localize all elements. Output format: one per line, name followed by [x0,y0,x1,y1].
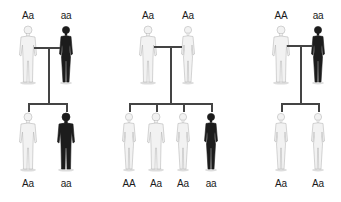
panel-3-child-1-female-unaffected-figure-icon [271,112,291,176]
panel-1-descent-line [48,47,50,103]
panel-1-child-1-male-unaffected-figure-icon [17,112,39,176]
panel-2-child-4-genotype-label: aa [206,178,217,189]
panel-3-child-1-genotype-label: Aa [275,178,287,189]
panel-2-child-1-connector [129,103,131,112]
panel-1-sibship-line [28,103,68,105]
panel-1-child-2-genotype-label: aa [61,178,72,189]
panel-3-parent-2-genotype-label: aa [313,10,324,21]
panel-1-child-2-male-affected-figure-icon [55,112,77,176]
panel-3-parent-2-female-affected-figure-icon [308,25,328,89]
panel-3-parent-1-genotype-label: AA [275,10,288,21]
panel-1-mating-line [34,47,60,49]
panel-2-sibship-line [129,103,213,105]
panel-1-child-2-connector [66,103,68,112]
panel-1-child-1-connector [28,103,30,112]
panel-3-child-2-connector [318,103,320,112]
panel-2-child-3-genotype-label: Aa [177,178,189,189]
panel-3-child-2-female-unaffected-figure-icon [308,112,328,176]
panel-1-parent-1-genotype-label: Aa [22,10,34,21]
panel-1-parent-2-genotype-label: aa [61,10,72,21]
panel-2-parent-2-genotype-label: Aa [182,10,194,21]
panel-2-child-2-male-unaffected-figure-icon [145,112,167,176]
panel-1-parent-1-male-unaffected-figure-icon [17,25,39,89]
panel-3-parent-1-male-unaffected-figure-icon [270,25,292,89]
panel-2-descent-line [170,46,172,103]
panel-2-parent-1-genotype-label: Aa [142,10,154,21]
panel-1-child-1-genotype-label: Aa [22,178,34,189]
panel-3-child-2-genotype-label: Aa [312,178,324,189]
panel-3-child-1-connector [281,103,283,112]
panel-1-parent-2-female-affected-figure-icon [56,25,76,89]
panel-2-child-2-connector [156,103,158,112]
panel-3-sibship-line [281,103,320,105]
panel-2-parent-2-female-unaffected-figure-icon [178,25,198,89]
panel-2-child-1-female-unaffected-figure-icon [119,112,139,176]
panel-2-mating-line [154,46,182,48]
panel-2-child-4-female-affected-figure-icon [201,112,221,176]
panel-2-child-3-connector [183,103,185,112]
panel-2-child-2-genotype-label: Aa [150,178,162,189]
panel-2-child-1-genotype-label: AA [123,178,136,189]
panel-3-descent-line [300,45,302,103]
panel-2-child-3-female-unaffected-figure-icon [173,112,193,176]
panel-2-parent-1-male-unaffected-figure-icon [137,25,159,89]
panel-2-child-4-connector [211,103,213,112]
pedigree-diagram: Aa aa Aa aaAa Aa [0,0,341,202]
